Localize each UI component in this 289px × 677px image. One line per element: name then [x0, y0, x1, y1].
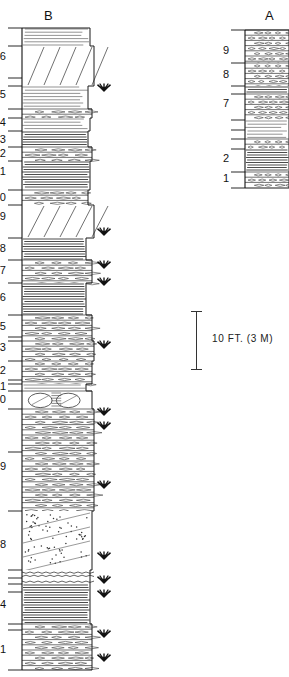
- plant-fossil-symbol: [98, 84, 111, 91]
- sand-dot: [36, 518, 38, 520]
- sand-dot: [86, 517, 88, 519]
- sand-dot: [48, 548, 50, 550]
- unit-label: 4: [0, 598, 6, 610]
- unit-label: 9: [0, 460, 6, 472]
- sand-dot: [80, 534, 82, 536]
- sand-dot: [34, 546, 36, 548]
- bed-bg: [22, 161, 90, 190]
- sand-dot: [52, 538, 54, 540]
- sand-dot: [59, 549, 61, 551]
- plant-fossil-symbol: [98, 630, 111, 637]
- bed-limestone: [22, 260, 101, 285]
- bed-bg: [245, 172, 289, 188]
- unit-label: 8: [223, 68, 229, 80]
- bed-sandstone-cross: [22, 205, 108, 238]
- plant-fossil-symbol: [98, 341, 111, 348]
- sand-dot: [61, 549, 63, 551]
- bed-limestone: [22, 409, 103, 512]
- bed-limestone: [22, 109, 98, 118]
- scale-bar-cap-bottom: [191, 369, 202, 370]
- bed-bg: [22, 86, 88, 109]
- strat-column-A: 98721: [223, 30, 289, 188]
- unit-label: 19: [0, 210, 6, 222]
- unit-label: 25: [0, 88, 6, 100]
- bed-concretion: [22, 391, 92, 409]
- sand-dot: [28, 534, 30, 536]
- unit-label: 9: [223, 44, 229, 56]
- unit-label: 2: [223, 152, 229, 164]
- column-title-b: B: [44, 8, 53, 23]
- bed-bg: [22, 190, 88, 205]
- sand-dot: [58, 531, 60, 533]
- sand-dot: [79, 534, 81, 536]
- plant-fossil-symbol: [98, 552, 111, 559]
- bed-sandstone-dotted: [22, 511, 92, 571]
- sand-dot: [50, 562, 52, 564]
- sand-dot: [41, 545, 43, 547]
- sand-dot: [76, 526, 78, 528]
- sand-dot: [82, 538, 84, 540]
- plant-fossil-symbol: [98, 654, 111, 661]
- scale-bar-label: 10 FT. (3 M): [212, 333, 273, 344]
- bed-shale: [22, 86, 88, 109]
- scale-bar: 10 FT. (3 M): [190, 305, 289, 375]
- bed-limestone: [245, 172, 289, 188]
- bed-shale-dark: [245, 149, 289, 172]
- sand-dot: [32, 521, 34, 523]
- unit-label: 7: [223, 97, 229, 109]
- sand-dot: [61, 552, 63, 554]
- bed-shale: [245, 120, 289, 130]
- sand-dot: [42, 529, 44, 531]
- bed-limestone: [22, 341, 97, 361]
- unit-label: 10: [0, 393, 6, 405]
- bed-shale-dark: [22, 238, 86, 260]
- bed-shale: [22, 28, 90, 46]
- sand-dot: [76, 538, 78, 540]
- plant-fossil-symbol: [98, 261, 111, 268]
- unit-label: 23: [0, 133, 6, 145]
- sand-dot: [56, 519, 58, 521]
- bed-limestone: [22, 624, 101, 670]
- bed-bg: [245, 120, 289, 130]
- sand-dot: [31, 539, 33, 541]
- sand-dot: [37, 517, 39, 519]
- bed-limestone: [22, 147, 99, 161]
- stratigraphic-figure: B A 262524232221201918171615131211109841…: [0, 0, 289, 677]
- sand-dot: [54, 546, 56, 548]
- bed-limestone: [245, 63, 289, 88]
- sand-dot: [81, 536, 83, 538]
- bed-shale-dark: [22, 161, 90, 190]
- bed-bg: [22, 118, 90, 131]
- sand-dot: [47, 521, 49, 523]
- unit-label: 13: [0, 341, 6, 353]
- sand-dot: [45, 526, 47, 528]
- bed-limestone: [22, 361, 96, 386]
- scale-bar-cap-top: [191, 311, 202, 312]
- sand-dot: [26, 521, 28, 523]
- unit-label: 18: [0, 242, 6, 254]
- strat-column-B: 262524232221201918171615131211109841: [0, 28, 108, 670]
- bed-bg: [22, 109, 92, 118]
- sand-dot: [59, 527, 61, 529]
- sand-dot: [51, 558, 53, 560]
- sand-dot: [85, 535, 87, 537]
- plant-fossil-symbol: [98, 228, 111, 235]
- bed-limestone: [22, 315, 100, 341]
- unit-label: 16: [0, 291, 6, 303]
- sand-dot: [60, 528, 62, 530]
- sand-dot: [81, 532, 83, 534]
- bed-shale-dark: [22, 283, 86, 315]
- unit-label: 20: [0, 191, 6, 203]
- sand-dot: [63, 556, 65, 558]
- unit-label: 22: [0, 147, 6, 159]
- sand-dot: [26, 514, 28, 516]
- unit-label: 21: [0, 165, 6, 177]
- sand-dot: [25, 551, 27, 553]
- unit-label: 8: [0, 538, 6, 550]
- sand-dot: [49, 527, 51, 529]
- scale-bar-line: [196, 311, 197, 369]
- sand-dot: [28, 560, 30, 562]
- sand-dot: [59, 516, 61, 518]
- bed-shale: [22, 118, 90, 131]
- sand-dot: [47, 530, 49, 532]
